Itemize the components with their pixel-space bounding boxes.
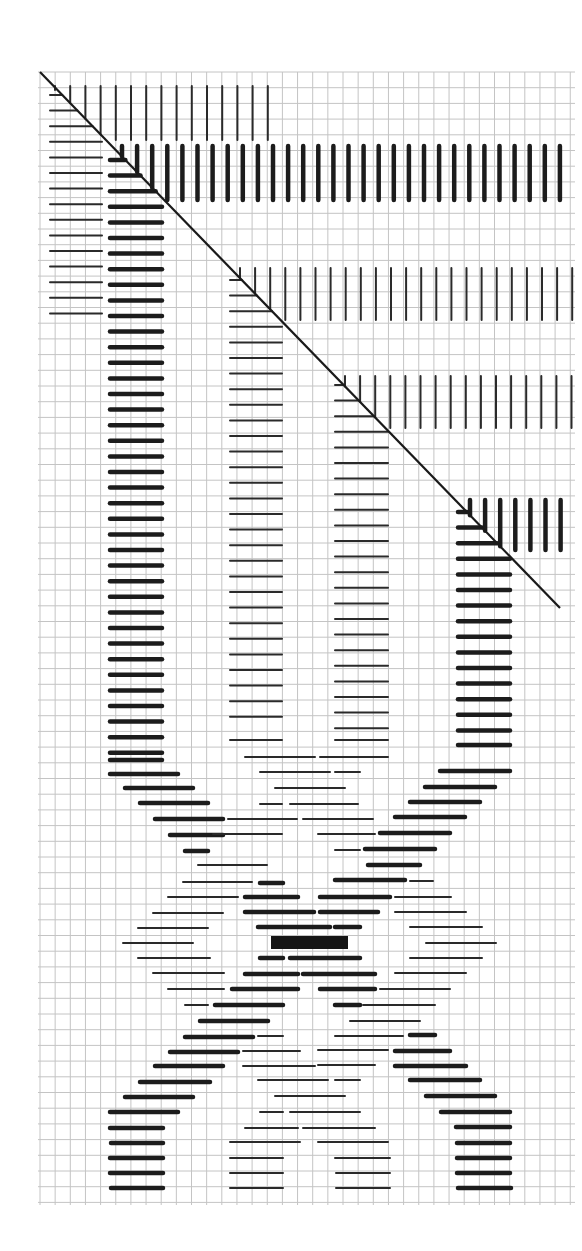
center-knot-block [271, 936, 348, 949]
stitch-chart [0, 0, 582, 1251]
